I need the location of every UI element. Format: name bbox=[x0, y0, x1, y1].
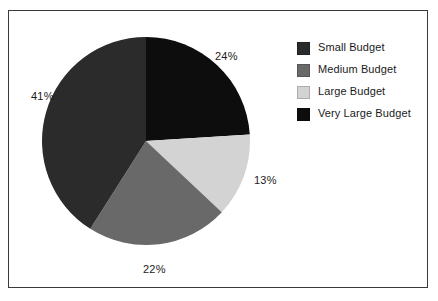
legend-swatch-icon bbox=[297, 42, 310, 55]
legend-swatch-icon bbox=[297, 108, 310, 121]
legend-item-label: Large Budget bbox=[318, 85, 385, 98]
legend-swatch-icon bbox=[297, 86, 310, 99]
legend-item-very-large-budget: Very Large Budget bbox=[297, 107, 423, 121]
legend-item-label: Small Budget bbox=[318, 41, 385, 54]
legend-item-label: Very Large Budget bbox=[318, 107, 411, 120]
chart-frame: 24% 13% 22% 41% Small Budget Medium Budg… bbox=[8, 10, 428, 288]
legend-item-small-budget: Small Budget bbox=[297, 41, 423, 55]
legend-item-label: Medium Budget bbox=[318, 63, 396, 76]
chart-legend: Small Budget Medium Budget Large Budget … bbox=[297, 41, 423, 129]
slice-label-medium-budget: 22% bbox=[143, 263, 166, 275]
slice-label-large-budget: 13% bbox=[254, 174, 277, 186]
legend-swatch-icon bbox=[297, 64, 310, 77]
pie-slice-group bbox=[42, 37, 250, 245]
slice-label-very-large-budget: 24% bbox=[215, 50, 238, 62]
legend-item-large-budget: Large Budget bbox=[297, 85, 423, 99]
legend-item-medium-budget: Medium Budget bbox=[297, 63, 423, 77]
pie-chart-plot-area: 24% 13% 22% 41% Small Budget Medium Budg… bbox=[9, 11, 429, 289]
pie-chart-graphic bbox=[41, 36, 251, 246]
slice-label-small-budget: 41% bbox=[31, 90, 54, 102]
